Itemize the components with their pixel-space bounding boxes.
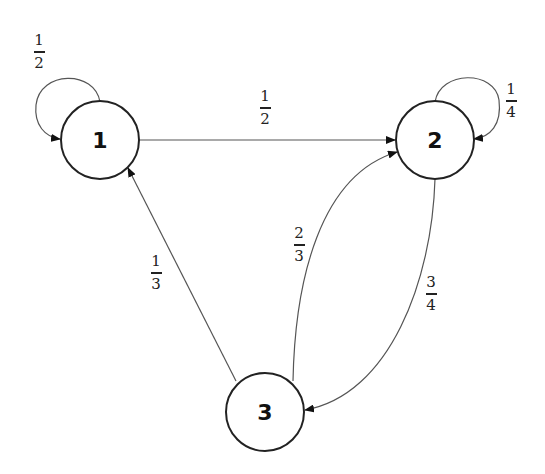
node-3[interactable]: 3 bbox=[226, 373, 304, 451]
fraction-bar bbox=[426, 293, 437, 295]
state-diagram: 1 2 3 bbox=[0, 0, 545, 474]
fraction-bar bbox=[294, 244, 305, 246]
numerator: 2 bbox=[289, 225, 309, 242]
numerator: 3 bbox=[421, 274, 441, 291]
node-3-label: 3 bbox=[257, 400, 272, 425]
edge-label-1-to-2: 1 2 bbox=[255, 88, 275, 128]
node-1-label: 1 bbox=[92, 128, 107, 153]
node-2[interactable]: 2 bbox=[396, 101, 474, 179]
node-2-label: 2 bbox=[427, 128, 442, 153]
fraction-bar bbox=[506, 100, 517, 102]
edge-3-to-2 bbox=[293, 152, 397, 381]
numerator: 1 bbox=[146, 253, 166, 270]
edge-label-1-to-1: 1 2 bbox=[29, 32, 49, 72]
fraction-bar bbox=[260, 107, 271, 109]
denominator: 4 bbox=[501, 104, 521, 121]
edge-label-2-to-2: 1 4 bbox=[501, 81, 521, 121]
edge-label-3-to-2: 2 3 bbox=[289, 225, 309, 265]
node-1[interactable]: 1 bbox=[61, 101, 139, 179]
denominator: 2 bbox=[29, 55, 49, 72]
fraction-bar bbox=[151, 272, 162, 274]
edge-3-to-1 bbox=[128, 168, 236, 381]
denominator: 3 bbox=[146, 276, 166, 293]
fraction-bar bbox=[34, 51, 45, 53]
denominator: 2 bbox=[255, 111, 275, 128]
edge-label-3-to-1: 1 3 bbox=[146, 253, 166, 293]
numerator: 1 bbox=[501, 81, 521, 98]
numerator: 1 bbox=[255, 88, 275, 105]
edge-2-to-3 bbox=[305, 179, 435, 410]
denominator: 3 bbox=[289, 248, 309, 265]
edge-label-2-to-3: 3 4 bbox=[421, 274, 441, 314]
numerator: 1 bbox=[29, 32, 49, 49]
denominator: 4 bbox=[421, 297, 441, 314]
